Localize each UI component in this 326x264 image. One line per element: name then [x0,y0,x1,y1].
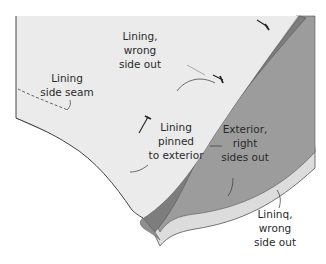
svg-text:Exterior,: Exterior, [223,123,268,135]
svg-text:Lining: Lining [51,72,83,84]
svg-text:wrong: wrong [124,44,156,56]
svg-text:wrong: wrong [259,222,291,234]
svg-text:pinned: pinned [158,135,194,147]
sewing-diagram: Lining, wrong side out Lining side seam … [0,0,326,264]
svg-text:Lining: Lining [160,121,192,133]
svg-text:sides out: sides out [221,151,269,163]
svg-text:right: right [233,137,258,149]
svg-text:Lininq,: Lininq, [258,208,293,220]
svg-text:Lining,: Lining, [123,30,158,42]
svg-text:side out: side out [254,236,296,248]
svg-text:to exterior: to exterior [149,149,205,161]
label-lining-wrong-bottom: Lininq, wrong side out [254,208,296,248]
label-lining-wrong-top: Lining, wrong side out [119,30,161,70]
svg-text:side out: side out [119,58,161,70]
svg-text:side seam: side seam [40,86,93,98]
